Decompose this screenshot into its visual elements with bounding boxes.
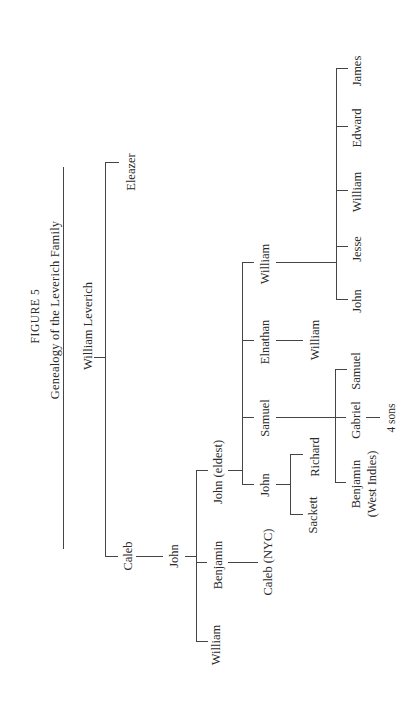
person-benjamin-wi-line2: (West Indies)	[365, 451, 379, 518]
person-william-leverich: William Leverich	[81, 282, 95, 370]
connector-william-gen5	[242, 262, 254, 263]
connector-richard	[290, 454, 303, 455]
person-samuel-gen6: Samuel	[349, 352, 363, 390]
person-jesse: Jesse	[350, 236, 364, 262]
person-caleb: Caleb	[121, 541, 135, 570]
person-eleazer: Eleazer	[124, 153, 138, 190]
connector-john-gen5-children	[290, 454, 291, 515]
person-william-gen4: William	[209, 625, 223, 665]
person-john-gen6: John	[350, 289, 364, 313]
connector-samuel-gen5-children	[335, 369, 336, 483]
person-john-gen3: John	[167, 544, 181, 568]
connector-jesse	[336, 246, 348, 247]
connector-benjamin-wi	[335, 482, 346, 483]
connector-john-eldest-children	[242, 262, 243, 484]
figure-title: Genealogy of the Leverich Family	[48, 221, 62, 400]
connector-william-gen5-out	[276, 262, 336, 263]
connector-elnathan-william	[276, 340, 303, 341]
connector-james	[336, 68, 348, 69]
connector-john-gen5-out	[276, 484, 290, 485]
person-elnathan: Elnathan	[258, 320, 272, 364]
connector-john-gen3-children	[196, 470, 197, 642]
person-samuel-gen5: Samuel	[258, 399, 272, 437]
connector-sackett	[290, 514, 303, 515]
person-benjamin-gen4: Benjamin	[211, 541, 225, 590]
connector-elnathan	[242, 340, 254, 341]
connector-william-gen5-children	[336, 68, 337, 300]
person-benjamin-wi-line1: Benjamin	[349, 460, 363, 509]
connector-john-gen5	[242, 484, 254, 485]
connector-john-eldest-out	[228, 470, 242, 471]
connector-benjamin-gen4	[196, 562, 207, 563]
person-gabriel: Gabriel	[349, 401, 363, 438]
connector-root	[94, 357, 105, 358]
connector-william-gen4	[196, 641, 208, 642]
connector-gabriel-sons	[366, 417, 380, 418]
connector-benjamin-caleb-nyc	[228, 562, 258, 563]
person-william-gen5: William	[258, 244, 272, 284]
person-james: James	[350, 56, 364, 87]
person-john-eldest: John (eldest)	[211, 440, 225, 504]
connector-john-gen6	[336, 299, 348, 300]
connector-samuel-gen6	[335, 369, 347, 370]
connector-caleb-john	[136, 556, 163, 557]
person-william-son-of-elnathan: William	[308, 320, 322, 360]
person-edward: Edward	[350, 109, 364, 148]
figure-number: FIGURE 5	[28, 289, 42, 344]
person-richard: Richard	[308, 437, 322, 477]
title-rule	[63, 167, 64, 549]
connector-samuel-gen5-out	[276, 417, 335, 418]
connector-gabriel	[335, 417, 346, 418]
person-caleb-nyc: Caleb (NYC)	[261, 529, 275, 596]
connector-root-children	[105, 162, 106, 557]
person-four-sons: 4 sons	[384, 403, 398, 432]
connector-samuel-gen5	[242, 417, 254, 418]
connector-edward	[336, 126, 348, 127]
connector-john-gen3	[185, 556, 196, 557]
connector-caleb	[105, 556, 118, 557]
person-william-gen6: William	[350, 172, 364, 212]
connector-eleazer	[105, 162, 119, 163]
connector-william-gen6	[336, 190, 348, 191]
connector-john-eldest	[196, 470, 208, 471]
person-john-gen5: John	[258, 473, 272, 497]
genealogy-figure: FIGURE 5 Genealogy of the Leverich Famil…	[0, 0, 411, 715]
person-sackett: Sackett	[306, 497, 320, 534]
